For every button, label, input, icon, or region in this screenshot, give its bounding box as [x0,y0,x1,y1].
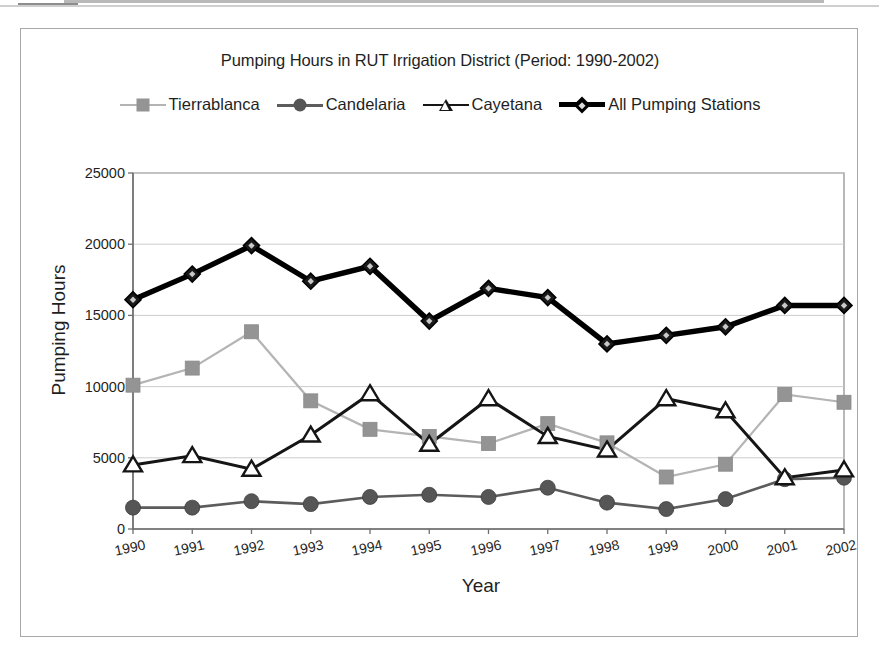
y-tick-label: 20000 [65,236,125,252]
data-point-marker [659,502,674,517]
plot-border [133,173,844,529]
data-point-marker [719,457,733,471]
data-point-marker [481,489,496,504]
data-point-marker [659,470,673,484]
data-point-marker [245,325,259,339]
data-point-marker [600,495,615,510]
data-point-marker [363,489,378,504]
data-point-marker [778,387,792,401]
data-point-marker [837,395,851,409]
data-point-marker [244,494,259,509]
data-point-marker [540,480,555,495]
data-point-marker [126,378,140,392]
data-point-marker [422,487,437,502]
y-tick-label: 15000 [65,307,125,323]
data-point-marker [482,437,496,451]
data-point-marker [185,500,200,515]
data-point-marker [126,500,141,515]
scan-artifact-bar-3 [0,5,879,7]
y-tick-label: 25000 [65,165,125,181]
y-tick-label: 0 [65,521,125,537]
data-point-marker [304,394,318,408]
chart-figure-frame: Pumping Hours in RUT Irrigation District… [20,28,858,637]
data-point-marker [185,361,199,375]
y-tick-label: 10000 [65,379,125,395]
scan-edge-artifact [0,0,879,10]
scan-artifact-bar-1 [64,0,824,3]
data-point-marker [363,422,377,436]
data-point-marker [303,497,318,512]
data-point-marker [718,492,733,507]
plot-area-wrapper: Pumping Hours Year 050001000015000200002… [21,29,859,638]
y-tick-label: 5000 [65,450,125,466]
